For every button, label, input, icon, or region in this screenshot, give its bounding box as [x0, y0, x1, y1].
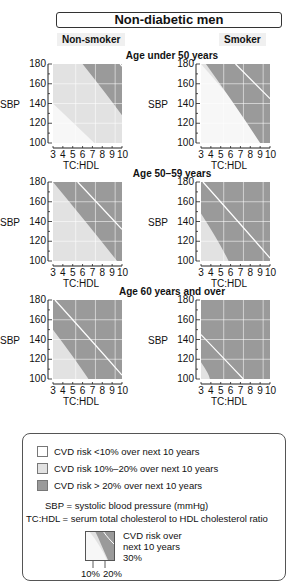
x-tick-label: 3: [48, 268, 58, 278]
x-tick-label: 9: [107, 150, 117, 160]
x-tick-label: 7: [87, 150, 97, 160]
x-tick-label: 7: [87, 386, 97, 396]
x-tick-label: 6: [226, 268, 236, 278]
x-tick-label: 8: [245, 386, 255, 396]
y-tick-label: 120: [20, 236, 46, 246]
y-tick-label: 140: [20, 217, 46, 227]
risk-chart-1: 180160140120100SBP345678910TC:HDL: [0, 58, 130, 168]
x-tick-label: 7: [87, 268, 97, 278]
x-tick-label: 5: [216, 150, 226, 160]
risk-chart-3: 180160140120100SBP345678910TC:HDL: [0, 176, 130, 286]
column-header-smoker: Smoker: [219, 33, 266, 46]
x-tick-label: 8: [97, 386, 107, 396]
y-tick-label: 140: [20, 335, 46, 345]
y-tick-label: 100: [20, 374, 46, 384]
x-tick-label: 7: [235, 386, 245, 396]
legend-box: CVD risk <10% over next 10 years CVD ris…: [22, 433, 286, 581]
x-tick-label: 9: [255, 268, 265, 278]
y-tick-label: 160: [20, 79, 46, 89]
legend-label-mid: CVD risk 10%–20% over next 10 years: [54, 463, 218, 474]
y-tick-label: 160: [168, 197, 194, 207]
x-tick-label: 3: [48, 150, 58, 160]
y-axis-label: SBP: [148, 99, 168, 110]
y-tick-label: 140: [20, 99, 46, 109]
x-tick-label: 3: [196, 386, 206, 396]
y-tick-label: 140: [168, 335, 194, 345]
x-tick-label: 4: [58, 268, 68, 278]
x-axis-label: TC:HDL: [63, 396, 99, 407]
y-axis-label: SBP: [0, 217, 20, 228]
y-tick-label: 120: [168, 118, 194, 128]
y-axis-label: SBP: [148, 335, 168, 346]
tchdl-note: TC:HDL = serum total cholesterol to HDL …: [26, 513, 268, 524]
x-tick-label: 10: [117, 386, 127, 396]
legend-item-low: CVD risk <10% over next 10 years: [37, 446, 199, 457]
y-tick-label: 180: [168, 59, 194, 69]
column-header-non-smoker: Non-smoker: [57, 33, 125, 46]
y-axis-label: SBP: [0, 335, 20, 346]
x-tick-label: 6: [78, 386, 88, 396]
x-tick-label: 6: [226, 150, 236, 160]
x-tick-label: 10: [265, 150, 275, 160]
x-tick-label: 9: [255, 150, 265, 160]
y-axis-label: SBP: [0, 99, 20, 110]
x-tick-label: 5: [68, 150, 78, 160]
x-tick-label: 5: [68, 386, 78, 396]
mini-title-line-2: next 10 years: [123, 541, 180, 552]
y-tick-label: 140: [168, 217, 194, 227]
x-tick-label: 9: [107, 386, 117, 396]
risk-chart-5: 180160140120100SBP345678910TC:HDL: [0, 294, 130, 404]
chart-title: Non-diabetic men: [56, 12, 282, 28]
x-tick-label: 8: [97, 150, 107, 160]
x-tick-label: 10: [265, 268, 275, 278]
x-tick-label: 6: [78, 150, 88, 160]
y-tick-label: 100: [20, 138, 46, 148]
y-tick-label: 160: [20, 197, 46, 207]
x-tick-label: 6: [78, 268, 88, 278]
y-tick-label: 100: [20, 256, 46, 266]
x-tick-label: 5: [216, 386, 226, 396]
mini-title-line-1: CVD risk over: [123, 530, 182, 541]
legend-label-high: CVD risk > 20% over next 10 years: [54, 480, 202, 491]
y-tick-label: 140: [168, 99, 194, 109]
y-tick-label: 100: [168, 138, 194, 148]
x-axis-label: TC:HDL: [63, 278, 99, 289]
swatch-low: [37, 446, 48, 457]
risk-chart-2: 180160140120100SBP345678910TC:HDL: [148, 58, 278, 168]
y-tick-label: 180: [20, 295, 46, 305]
x-tick-label: 8: [245, 268, 255, 278]
risk-chart-6: 180160140120100SBP345678910TC:HDL: [148, 294, 278, 404]
x-tick-label: 3: [48, 386, 58, 396]
x-tick-label: 4: [206, 150, 216, 160]
y-tick-label: 120: [168, 236, 194, 246]
x-tick-label: 4: [206, 268, 216, 278]
x-tick-label: 4: [58, 386, 68, 396]
y-tick-label: 180: [168, 295, 194, 305]
y-tick-label: 120: [168, 354, 194, 364]
legend-item-high: CVD risk > 20% over next 10 years: [37, 480, 202, 491]
mini-label-30: 30%: [123, 552, 142, 563]
y-tick-label: 180: [20, 177, 46, 187]
swatch-mid: [37, 463, 48, 474]
risk-chart-4: 180160140120100SBP345678910TC:HDL: [148, 176, 278, 286]
x-tick-label: 6: [226, 386, 236, 396]
x-tick-label: 9: [107, 268, 117, 278]
mini-label-10: 10%: [81, 568, 100, 579]
y-tick-label: 100: [168, 374, 194, 384]
x-tick-label: 9: [255, 386, 265, 396]
x-tick-label: 5: [68, 268, 78, 278]
x-axis-label: TC:HDL: [211, 396, 247, 407]
x-tick-label: 8: [97, 268, 107, 278]
x-axis-label: TC:HDL: [211, 278, 247, 289]
x-tick-label: 7: [235, 268, 245, 278]
x-axis-label: TC:HDL: [211, 160, 247, 171]
legend-label-low: CVD risk <10% over next 10 years: [54, 446, 199, 457]
y-tick-label: 180: [168, 177, 194, 187]
legend-item-mid: CVD risk 10%–20% over next 10 years: [37, 463, 218, 474]
x-axis-label: TC:HDL: [63, 160, 99, 171]
y-tick-label: 160: [168, 315, 194, 325]
x-tick-label: 10: [117, 268, 127, 278]
x-tick-label: 8: [245, 150, 255, 160]
x-tick-label: 10: [265, 386, 275, 396]
x-tick-label: 3: [196, 268, 206, 278]
